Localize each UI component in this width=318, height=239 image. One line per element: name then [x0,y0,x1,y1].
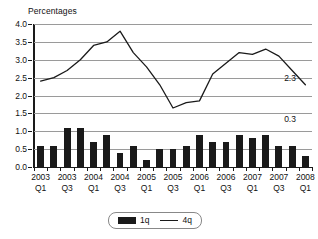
x-tick-label-quarter: Q1 [137,183,156,194]
x-tick-label-year: 2004 [111,172,130,183]
chart-legend: 1q 4q [108,212,202,229]
line-swatch-icon [160,220,178,221]
y-tick-mark [28,113,32,114]
x-tick-label-quarter: Q1 [31,183,50,194]
x-tick-mark [166,167,167,171]
legend-item-4q[interactable]: 4q [160,215,191,225]
x-tick-label-year: 2008 [296,172,315,183]
y-tick-mark [28,60,32,61]
x-tick-label-year: 2007 [269,172,288,183]
legend-label-1q: 1q [140,215,149,225]
y-tick-mark [28,131,32,132]
y-tick-label: 2.5 [15,73,27,83]
y-tick-label: 0.5 [15,144,27,154]
y-tick-mark [28,96,32,97]
y-tick-label: 3.5 [15,37,27,47]
x-tick-mark [219,167,220,171]
x-tick-mark [60,167,61,171]
y-axis-title: Percentages [28,6,77,16]
plot-area [34,24,312,167]
x-tick-mark [272,167,273,171]
x-tick-label-quarter: Q3 [216,183,235,194]
x-tick-mark [193,167,194,171]
x-tick-label-year: 2003 [31,172,50,183]
x-tick-label-year: 2007 [243,172,262,183]
y-tick-mark [28,149,32,150]
x-tick-label-quarter: Q1 [243,183,262,194]
x-tick-label-quarter: Q1 [190,183,209,194]
x-tick-label-quarter: Q3 [269,183,288,194]
x-tick-label: 2003Q1 [31,172,50,193]
x-tick-mark [206,167,207,171]
x-tick-label-year: 2003 [58,172,77,183]
x-tick-label: 2006Q1 [190,172,209,193]
x-tick-label-quarter: Q3 [58,183,77,194]
x-tick-label: 2003Q3 [58,172,77,193]
y-tick-mark [28,167,32,168]
x-tick-label-year: 2004 [84,172,103,183]
x-tick-label-quarter: Q1 [296,183,315,194]
y-tick-mark [28,24,32,25]
x-tick-label-year: 2005 [137,172,156,183]
x-tick-mark [127,167,128,171]
x-tick-mark [286,167,287,171]
y-axis-tick-labels: 0.00.51.01.52.02.53.03.54.0 [0,24,32,167]
x-tick-label-quarter: Q3 [111,183,130,194]
x-tick-mark [299,167,300,171]
y-tick-mark [28,78,32,79]
x-tick-label-year: 2006 [216,172,235,183]
bar-swatch-icon [118,217,136,224]
y-tick-label: 4.0 [15,19,27,29]
x-tick-label-quarter: Q3 [164,183,183,194]
bar-end-label: 0.3 [284,114,296,124]
x-tick-label: 2007Q1 [243,172,262,193]
y-tick-label: 1.0 [15,126,27,136]
x-tick-mark [87,167,88,171]
x-tick-mark [180,167,181,171]
x-axis-tick-labels: 2003Q12003Q32004Q12004Q32005Q12005Q32006… [34,172,312,202]
x-tick-label: 2005Q1 [137,172,156,193]
chart-container: Percentages 0.00.51.01.52.02.53.03.54.0 … [0,0,318,239]
x-tick-label: 2005Q3 [164,172,183,193]
x-tick-mark [259,167,260,171]
x-tick-label: 2007Q3 [269,172,288,193]
y-tick-label: 3.0 [15,55,27,65]
x-tick-label: 2004Q1 [84,172,103,193]
x-tick-label: 2004Q3 [111,172,130,193]
x-tick-mark [140,167,141,171]
x-tick-mark [74,167,75,171]
line-end-label: 2.3 [284,73,296,83]
x-tick-mark [113,167,114,171]
y-tick-label: 0.0 [15,162,27,172]
x-tick-label-year: 2006 [190,172,209,183]
legend-label-4q: 4q [182,215,191,225]
x-tick-label: 2008Q1 [296,172,315,193]
legend-item-1q[interactable]: 1q [118,215,149,225]
x-tick-mark [34,167,35,171]
x-tick-mark [153,167,154,171]
y-tick-label: 2.0 [15,91,27,101]
x-tick-mark [233,167,234,171]
line-series-4q [34,24,312,167]
y-tick-label: 1.5 [15,108,27,118]
x-tick-mark [312,167,313,171]
x-tick-label: 2006Q3 [216,172,235,193]
x-tick-label-year: 2005 [164,172,183,183]
x-tick-mark [246,167,247,171]
y-tick-mark [28,42,32,43]
x-tick-label-quarter: Q1 [84,183,103,194]
x-tick-mark [100,167,101,171]
x-tick-mark [47,167,48,171]
line-path [41,31,306,108]
